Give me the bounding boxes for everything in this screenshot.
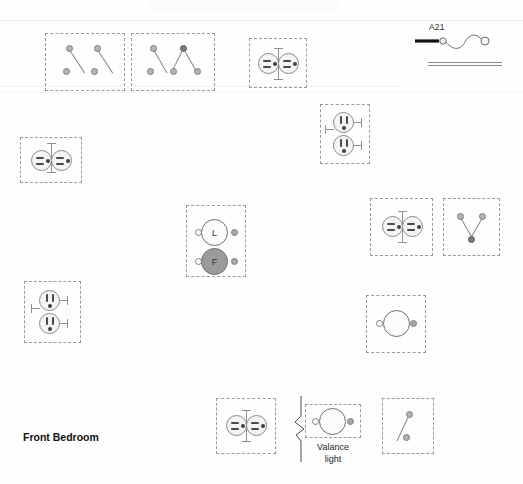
duplex-receptacle[interactable] [246, 415, 267, 436]
receptacle-slot [46, 317, 48, 325]
duplex-receptacle[interactable] [51, 150, 72, 171]
light-fixture[interactable] [383, 310, 410, 337]
fixture-tab-right [231, 258, 238, 265]
switch-node-bottom [147, 68, 154, 75]
receptacle-slot [387, 229, 395, 231]
receptacle-ground [293, 62, 297, 66]
receptacle-ground [48, 304, 52, 308]
duplex-receptacle[interactable] [278, 53, 299, 74]
duplex-receptacle[interactable] [31, 150, 52, 171]
scan-line-upper [0, 20, 523, 21]
switch-blade [154, 50, 168, 73]
switch-blade [185, 51, 196, 70]
fixture-tab-left [312, 418, 319, 425]
fixture-tab-left [376, 320, 383, 327]
receptacle-slot [346, 139, 348, 147]
receptacle-ground [241, 424, 245, 428]
device-group-receptacle-lower-left-pair[interactable] [24, 281, 81, 343]
receptacle-slot [251, 422, 259, 424]
receptacle-slot [46, 294, 48, 302]
receptacle-ground [342, 126, 346, 130]
receptacle-slot [231, 428, 239, 430]
switch-node-common [468, 236, 475, 243]
duplex-receptacle[interactable] [402, 216, 423, 237]
device-group-receptacle-top[interactable] [249, 38, 307, 88]
switch-node-traveler [194, 68, 201, 75]
device-group-switch-bottom-right[interactable] [382, 398, 434, 454]
receptacle-slot [36, 163, 44, 165]
valance-light-label: Valance light [303, 441, 363, 465]
light-fixture-l[interactable]: L [201, 219, 228, 246]
switch-blade [70, 50, 86, 73]
strap-cap [361, 141, 362, 150]
device-group-switch-bank-top-mid[interactable] [131, 33, 215, 91]
device-group-receptacle-left[interactable] [20, 137, 82, 183]
switch-node-bottom [403, 434, 410, 441]
strap-cap [67, 296, 68, 305]
valance-label-line1: Valance [317, 442, 349, 452]
receptacle-ground [261, 424, 265, 428]
mounting-strap [31, 308, 40, 309]
receptacle-ground [46, 159, 50, 163]
device-group-fixture-lower-right[interactable] [366, 295, 426, 353]
device-group-receptacle-upper-right-pair[interactable] [320, 104, 370, 164]
fan-fixture-f[interactable]: F [201, 248, 228, 275]
receptacle-ground [48, 327, 52, 331]
duplex-receptacle[interactable] [226, 415, 247, 436]
switch-node-bottom [91, 68, 98, 75]
strap-cap [242, 441, 251, 442]
duplex-receptacle[interactable] [333, 135, 354, 156]
strap-cap [67, 319, 68, 328]
strap-cap [398, 211, 407, 212]
receptacle-slot [407, 223, 415, 225]
receptacle-slot [263, 66, 271, 68]
receptacle-slot [231, 422, 239, 424]
strap-cap [242, 410, 251, 411]
device-group-fixture-group-center[interactable]: L F [186, 205, 246, 277]
scan-line-lower [0, 92, 523, 93]
receptacle-slot [340, 139, 342, 147]
receptacle-slot [52, 294, 54, 302]
receptacle-slot [56, 163, 64, 165]
receptacle-slot [340, 116, 342, 124]
receptacle-slot [346, 116, 348, 124]
device-group-receptacle-mid-right[interactable] [370, 198, 433, 256]
fixture-tab-right [347, 418, 354, 425]
receptacle-slot [283, 66, 291, 68]
fixture-tab-right [231, 229, 238, 236]
circuit-label-a21: A21 [429, 22, 445, 32]
duplex-receptacle[interactable] [39, 313, 60, 334]
strap-cap [274, 48, 283, 49]
switch-node-bottom [63, 68, 70, 75]
receptacle-ground [273, 62, 277, 66]
device-group-switch-bank-top-left[interactable] [45, 33, 125, 91]
receptacle-ground [397, 225, 401, 229]
strap-cap [274, 79, 283, 80]
receptacle-slot [251, 428, 259, 430]
valance-label-line2: light [325, 454, 342, 464]
receptacle-slot [56, 157, 64, 159]
duplex-receptacle[interactable] [333, 112, 354, 133]
receptacle-ground [417, 225, 421, 229]
device-group-receptacle-bottom[interactable] [216, 398, 276, 454]
strap-cap [325, 125, 326, 134]
receptacle-slot [36, 157, 44, 159]
duplex-receptacle[interactable] [39, 290, 60, 311]
fixture-tab-right [410, 320, 417, 327]
strap-cap [398, 242, 407, 243]
wall-section-symbol [428, 62, 502, 66]
device-group-switch-mid-far-right[interactable] [443, 198, 500, 256]
room-label-front-bedroom: Front Bedroom [23, 431, 99, 443]
scan-artifact-top [150, 0, 340, 12]
receptacle-slot [52, 317, 54, 325]
floor-plan-canvas: A21 [0, 0, 523, 484]
light-fixture[interactable] [319, 408, 346, 435]
receptacle-ground [66, 159, 70, 163]
receptacle-slot [407, 229, 415, 231]
duplex-receptacle[interactable] [382, 216, 403, 237]
mounting-strap [325, 129, 334, 130]
device-group-valance-light-fixture[interactable] [305, 404, 361, 438]
strap-cap [47, 172, 56, 173]
duplex-receptacle[interactable] [258, 53, 279, 74]
receptacle-slot [387, 223, 395, 225]
